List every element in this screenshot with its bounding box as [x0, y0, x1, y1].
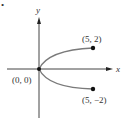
curve-upper-branch	[39, 48, 93, 69]
curve-lower-branch	[39, 69, 93, 89]
parabola-diagram: • y x (0, 0) (5, 2) (5, −2)	[0, 0, 122, 120]
label-lower: (5, −2)	[82, 95, 107, 105]
y-axis-label: y	[35, 5, 40, 15]
figure-marker: •	[1, 0, 4, 10]
label-upper: (5, 2)	[82, 34, 102, 44]
point-lower	[91, 87, 95, 91]
point-origin	[37, 67, 41, 71]
point-upper	[91, 46, 95, 50]
y-axis-arrow-icon	[37, 17, 41, 24]
x-axis-arrow-icon	[106, 67, 113, 71]
label-origin: (0, 0)	[12, 75, 32, 85]
x-axis-label: x	[115, 64, 120, 74]
